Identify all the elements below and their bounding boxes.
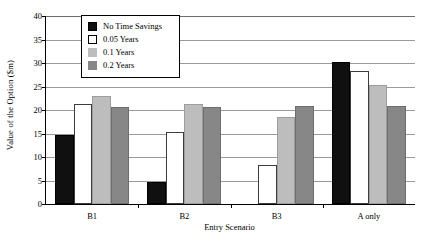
bar <box>258 165 277 204</box>
x-axis-title: Entry Scenario <box>45 222 414 232</box>
legend-item: 0.2 Years <box>88 59 174 72</box>
y-tick-label: 0 <box>20 200 42 209</box>
legend-item-label: 0.2 Years <box>103 61 134 70</box>
legend-swatch-icon <box>88 61 97 70</box>
x-tick-label: B1 <box>87 211 97 221</box>
y-tick-label: 10 <box>20 153 42 162</box>
legend-item-label: 0.1 Years <box>103 48 134 57</box>
bar <box>369 85 388 204</box>
x-tick-label: B3 <box>272 211 282 221</box>
legend-item: 0.1 Years <box>88 46 174 59</box>
bar <box>387 106 406 204</box>
x-tick-label: B2 <box>179 211 189 221</box>
bar <box>184 104 203 204</box>
bar <box>55 135 74 204</box>
legend-swatch-icon <box>88 35 97 44</box>
bar-chart-figure: Value of the Option ($m) 051015202530354… <box>0 0 431 247</box>
y-tick-label: 25 <box>20 82 42 91</box>
legend-swatch-icon <box>88 22 97 31</box>
legend-item-label: 0.05 Years <box>103 35 139 44</box>
bar <box>350 71 369 204</box>
legend-item-label: No Time Savings <box>103 22 162 31</box>
y-tick-label: 15 <box>20 129 42 138</box>
x-axis-title-text: Entry Scenario <box>204 222 255 232</box>
y-tick-label: 40 <box>20 12 42 21</box>
y-tick-mark <box>42 204 46 205</box>
bar <box>277 117 296 204</box>
x-tick-mark <box>323 204 324 208</box>
x-tick-mark <box>231 204 232 208</box>
bar <box>295 106 314 204</box>
bar <box>203 107 222 204</box>
bar <box>166 132 185 204</box>
bar <box>74 104 93 204</box>
bar <box>332 62 351 204</box>
legend-swatch-icon <box>88 48 97 57</box>
bar <box>111 107 130 204</box>
bar <box>92 96 111 204</box>
legend: No Time Savings0.05 Years0.1 Years0.2 Ye… <box>81 15 180 78</box>
y-tick-label: 5 <box>20 176 42 185</box>
y-tick-label: 35 <box>20 35 42 44</box>
y-axis-title: Value of the Option ($m) <box>0 0 20 210</box>
x-tick-mark <box>138 204 139 208</box>
y-axis-title-text: Value of the Option ($m) <box>5 60 15 150</box>
x-tick-label: A only <box>357 211 380 221</box>
y-tick-label: 20 <box>20 106 42 115</box>
legend-item: 0.05 Years <box>88 33 174 46</box>
y-tick-label: 30 <box>20 59 42 68</box>
legend-item: No Time Savings <box>88 20 174 33</box>
y-axis-tick-labels: 0510152025303540 <box>20 0 42 247</box>
bar <box>147 182 166 204</box>
